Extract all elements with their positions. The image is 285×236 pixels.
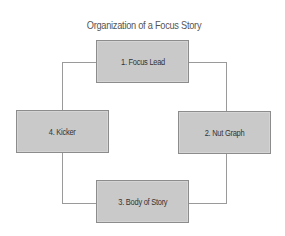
connector-focus-lead-to-kicker-h (62, 62, 96, 63)
node-label: 1. Focus Lead (121, 57, 165, 67)
connector-nut-graph-to-body-v (226, 154, 227, 204)
connector-focus-lead-to-nut-graph-v (226, 62, 227, 111)
node-label: 4. Kicker (49, 127, 76, 137)
node-focus-lead: 1. Focus Lead (96, 40, 189, 83)
connector-nut-graph-to-body-h (189, 203, 227, 204)
node-label: 2. Nut Graph (205, 128, 245, 138)
diagram-title: Organization of a Focus Story (17, 19, 270, 31)
node-label: 3. Body of Story (118, 197, 167, 207)
diagram-canvas: Organization of a Focus Story 1. Focus L… (0, 0, 285, 236)
connector-focus-lead-to-kicker-v (62, 62, 63, 110)
connector-focus-lead-to-nut-graph-h (189, 62, 227, 63)
node-body-of-story: 3. Body of Story (96, 180, 189, 223)
node-nut-graph: 2. Nut Graph (178, 111, 271, 154)
connector-kicker-to-body-v (62, 153, 63, 204)
connector-kicker-to-body-h (62, 203, 96, 204)
node-kicker: 4. Kicker (16, 110, 109, 153)
